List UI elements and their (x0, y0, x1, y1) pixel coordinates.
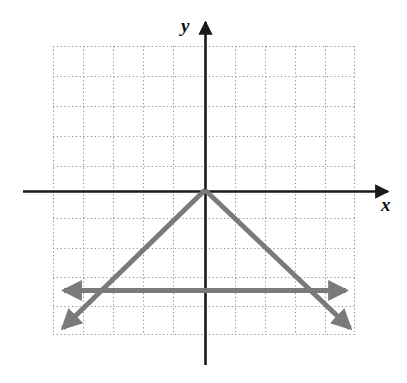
v-right-ray (205, 190, 350, 328)
x-axis-label: x (381, 195, 391, 214)
graph-figure: y x (0, 0, 407, 383)
coordinate-plane-svg (0, 0, 407, 383)
v-left-ray (63, 190, 205, 328)
y-axis-label: y (181, 16, 189, 35)
